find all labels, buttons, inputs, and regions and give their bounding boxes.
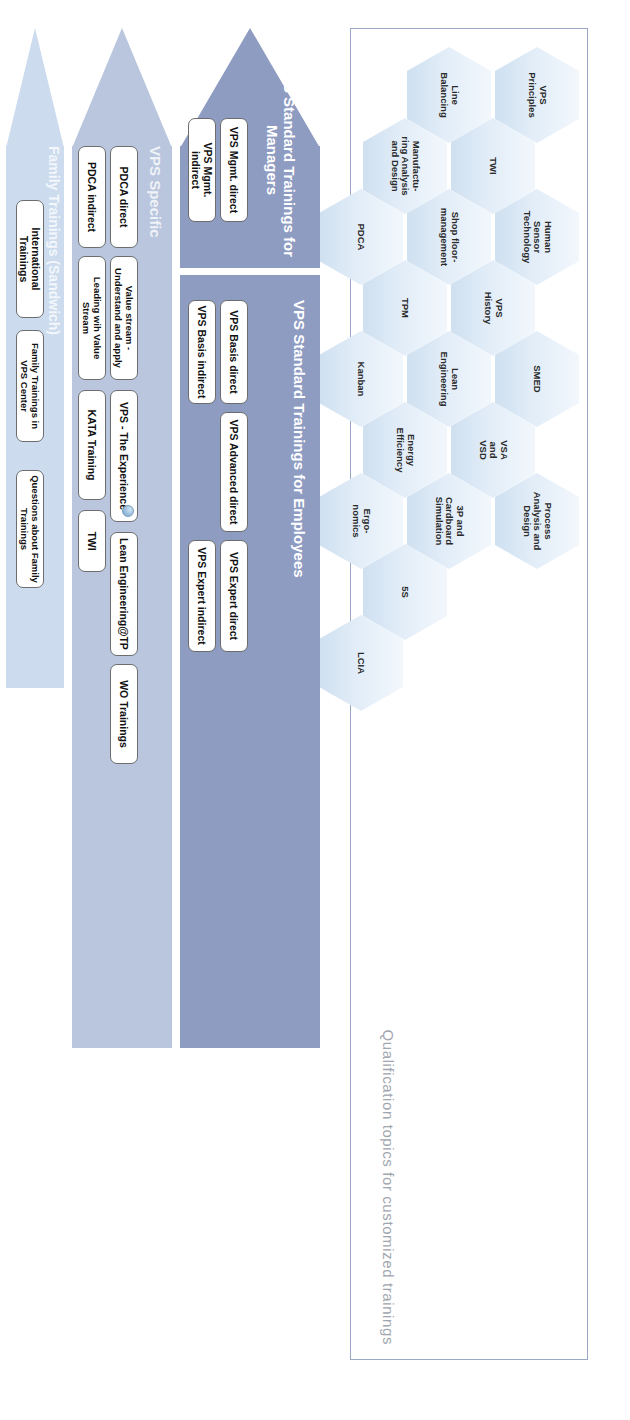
- card-vps-mgmt-indirect[interactable]: VPS Mgmt. indirect: [188, 118, 216, 222]
- title-vps-standard-trainings-employees: VPS Standard Trainings for Employees: [291, 300, 308, 720]
- card-value-stream-understand-and-apply[interactable]: Value stream - Understand and apply: [110, 256, 138, 380]
- card-leading-with-value-stream[interactable]: Leading wih Value Stream: [78, 256, 106, 380]
- title-vps-specific: VPS Specific: [147, 146, 164, 366]
- card-questions-about-family-trainings[interactable]: Questions about Family Trainings: [16, 470, 44, 588]
- card-pdca-direct[interactable]: PDCA direct: [110, 146, 138, 248]
- card-vps-mgmt-direct[interactable]: VPS Mgmt. direct: [220, 118, 248, 222]
- arrow-head-family-trainings: [6, 28, 64, 148]
- card-vps-expert-indirect[interactable]: VPS Expert indirect: [188, 540, 216, 652]
- card-vps-basis-direct[interactable]: VPS Basis direct: [220, 300, 248, 404]
- scanned-page-wrapper: VPSPrinciples HumanSensorTechnology SMED…: [0, 0, 630, 1420]
- title-vps-standard-trainings-managers: VPS Standard Trainings for Managers: [264, 60, 299, 260]
- card-kata-training[interactable]: KATA Training: [78, 390, 106, 500]
- band-divider: [180, 268, 320, 275]
- card-vps-expert-direct[interactable]: VPS Expert direct: [220, 540, 248, 652]
- card-twi[interactable]: TWI: [78, 510, 106, 572]
- card-vps-advanced-direct[interactable]: VPS Advanced direct: [220, 412, 248, 532]
- globe-icon: [122, 505, 134, 517]
- card-vps-basis-indirect[interactable]: VPS Basis indirect: [188, 300, 216, 404]
- card-international-trainings[interactable]: International Trainings: [16, 200, 44, 318]
- card-lean-engineering-tp[interactable]: Lean Engineering@TP: [110, 532, 138, 656]
- card-wo-trainings[interactable]: WO Trainings: [110, 664, 138, 764]
- arrow-head-vps-specific: [72, 28, 172, 148]
- qualification-topics-caption: Qualification topics for customized trai…: [380, 1030, 397, 1345]
- card-vps-the-experience[interactable]: VPS - The Experience: [110, 390, 138, 522]
- card-family-trainings-in-vps-center[interactable]: Family Trainings in VPS Center: [16, 330, 44, 442]
- vps-training-portfolio-diagram: VPSPrinciples HumanSensorTechnology SMED…: [0, 0, 630, 1420]
- qualification-topics-panel: VPSPrinciples HumanSensorTechnology SMED…: [350, 28, 588, 1360]
- title-family-trainings: Family Trainings (Sandwich): [46, 146, 62, 446]
- card-pdca-indirect[interactable]: PDCA indirect: [78, 146, 106, 248]
